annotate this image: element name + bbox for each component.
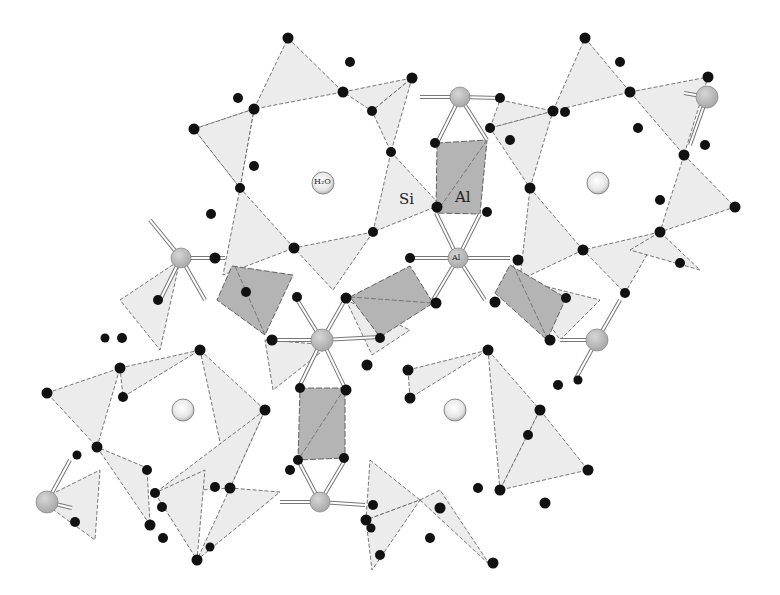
al-atom xyxy=(310,492,330,512)
label-water: H₂O xyxy=(314,177,331,186)
label-silicon: Si xyxy=(399,190,414,208)
al-atom xyxy=(311,329,333,351)
crystal-structure-diagram xyxy=(0,0,780,595)
water-molecule xyxy=(172,399,194,421)
label-aluminum-octahedron: Al xyxy=(455,188,471,206)
al-atom xyxy=(586,329,608,351)
al-atom xyxy=(36,491,58,513)
water-molecule xyxy=(587,172,609,194)
water-molecule xyxy=(444,399,466,421)
tetrahedral-ring-top-right xyxy=(490,38,735,293)
al-atom xyxy=(450,87,470,107)
label-aluminum-atom: Al xyxy=(452,253,460,262)
al-atom xyxy=(696,86,718,108)
al-atom xyxy=(171,248,191,268)
octahedron-left xyxy=(217,266,293,335)
tetrahedral-ring-top-left xyxy=(194,38,440,290)
